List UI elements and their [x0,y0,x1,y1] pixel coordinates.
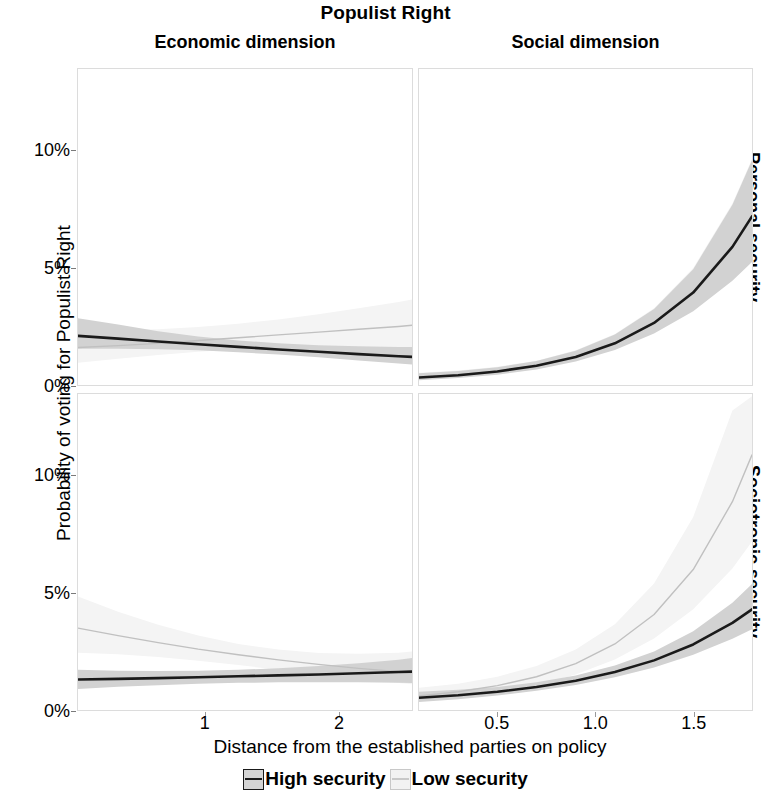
y-tick-mark [71,475,76,476]
legend-item-low-security[interactable]: Low security [390,768,528,790]
facet-strip-economic-dimension: Economic dimension [77,29,413,55]
x-tick-label: 1.0 [583,714,608,732]
y-tick-label: 0% [44,702,70,720]
x-tick-label: 2 [334,714,344,732]
facet-strip-social-dimension: Social dimension [418,29,753,55]
confidence-band [419,160,752,380]
x-tick-label: 1.5 [681,714,706,732]
page-title: Populist Right [0,2,771,24]
x-tick-label: 0.5 [484,714,509,732]
legend: High security Low security [0,765,771,793]
confidence-band [419,396,752,701]
x-axis-title: Distance from the established parties on… [60,736,760,758]
y-tick-mark [71,268,76,269]
y-tick-mark [71,150,76,151]
y-tick-label: 10% [34,466,70,484]
panel-personal-economic [77,68,413,386]
y-tick-mark [71,711,76,712]
y-tick-label: 10% [34,141,70,159]
panel-sociotropic-economic [77,393,413,711]
facet-strip-economic-label: Economic dimension [154,32,335,53]
y-tick-label: 5% [44,259,70,277]
y-tick-mark [71,593,76,594]
panel-personal-social [418,68,753,386]
y-tick-label: 0% [44,377,70,395]
panel-sociotropic-social [418,393,753,711]
legend-label-low-security: Low security [412,768,528,790]
facet-strip-social-label: Social dimension [511,32,659,53]
legend-label-high-security: High security [265,768,385,790]
legend-item-high-security[interactable]: High security [243,768,385,790]
legend-key-high-security-icon [243,769,264,790]
legend-key-low-security-icon [390,769,411,790]
y-tick-label: 5% [44,584,70,602]
x-tick-label: 1 [200,714,210,732]
y-tick-mark [71,386,76,387]
